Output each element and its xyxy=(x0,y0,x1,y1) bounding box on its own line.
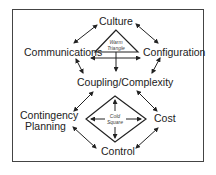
warm-triangle-label-2: Triangle xyxy=(104,45,128,51)
node-contingency-line2: Planning xyxy=(25,121,66,132)
node-control: Control xyxy=(101,146,135,157)
arrow-communications-coupling xyxy=(76,59,83,73)
node-cost: Cost xyxy=(154,113,176,124)
arrow-configuration-coupling xyxy=(152,58,160,73)
node-culture: Culture xyxy=(99,16,133,27)
node-configuration: Configuration xyxy=(143,47,205,58)
cold-square-label-2: Square xyxy=(103,119,127,125)
node-coupling-complexity: Coupling/Complexity xyxy=(77,77,173,88)
arrow-cost-control xyxy=(136,128,158,148)
arrow-culture-communications xyxy=(74,25,97,43)
arrow-coupling-cost xyxy=(137,91,157,111)
arrow-culture-configuration xyxy=(136,24,158,43)
arrow-contingency-control xyxy=(73,127,96,148)
node-communications: Communications xyxy=(24,47,102,58)
